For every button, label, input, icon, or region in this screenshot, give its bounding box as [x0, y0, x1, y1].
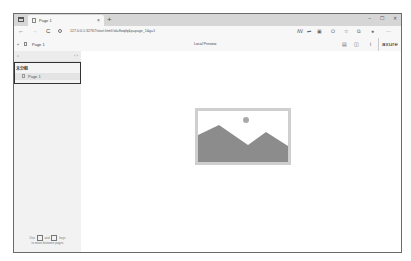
image-placeholder-icon	[198, 111, 288, 162]
browser-window: Page 1 × + – ☐ ✕ ← → C 127.0.0.1:32767/s…	[13, 13, 402, 253]
tab-close-icon[interactable]: ×	[97, 17, 100, 23]
prototype-canvas	[81, 51, 401, 252]
sitemap-item-page-1[interactable]: Page 1	[15, 73, 80, 80]
favorites-icon[interactable]: ☆	[344, 28, 348, 34]
sitemap-item-label: Page 1	[28, 74, 41, 79]
folder-label[interactable]: 未分组	[16, 65, 28, 71]
maximize-button[interactable]: ☐	[380, 15, 384, 21]
tab-actions-icon[interactable]	[18, 17, 24, 22]
hint-line2: to move between pages	[14, 241, 81, 246]
tab-bar: Page 1 × + – ☐ ✕	[14, 14, 401, 26]
tab-title: Page 1	[39, 18, 52, 23]
page-favicon-icon	[32, 18, 36, 23]
axure-logo: axure	[378, 38, 401, 51]
keyboard-hint: Use and keys to move between pages	[14, 235, 81, 246]
hint-keys: keys	[59, 236, 65, 240]
collapse-sidebar-icon[interactable]: «	[17, 42, 19, 47]
profile-icon[interactable]: ●	[371, 28, 374, 34]
close-window-button[interactable]: ✕	[393, 15, 397, 21]
more-icon[interactable]: ···	[386, 28, 391, 34]
page-icon	[22, 74, 25, 78]
sitemap-tree: 未分组 Page 1	[14, 62, 81, 84]
site-info-icon[interactable]	[58, 29, 62, 33]
collections-icon[interactable]: ⧉	[357, 28, 361, 35]
hint-and: and	[45, 236, 50, 240]
apps-icon[interactable]: ▣	[317, 28, 322, 34]
layout-icon[interactable]: ◫	[354, 41, 359, 47]
read-aloud-icon[interactable]: ꟿ	[297, 28, 303, 34]
forward-button[interactable]: →	[32, 28, 38, 34]
extension-icon[interactable]: ⭘	[331, 28, 335, 35]
info-icon[interactable]: i	[370, 41, 371, 47]
image-placeholder	[195, 108, 291, 165]
translate-icon[interactable]: ⇌	[307, 28, 311, 34]
search-icon[interactable]: ⌕	[17, 53, 19, 58]
local-preview-label: Local Preview	[194, 42, 216, 46]
minimize-button[interactable]: –	[368, 15, 371, 21]
sitemap-sidebar: ⌕ ‹ › 未分组 Page 1 Use and keys to move be…	[14, 51, 82, 252]
axure-toolbar: « Page 1 Local Preview ▤ ◫ i axure	[14, 38, 401, 52]
refresh-button[interactable]: C	[46, 28, 50, 34]
tab-page-1[interactable]: Page 1 ×	[28, 15, 104, 26]
current-page-name: Page 1	[32, 42, 45, 47]
sitemap-icon[interactable]: ▤	[342, 41, 347, 47]
new-tab-button[interactable]: +	[107, 15, 112, 24]
back-button[interactable]: ←	[18, 28, 24, 34]
page-nav-arrows[interactable]: ‹ ›	[74, 53, 78, 58]
page-icon	[24, 42, 27, 46]
url-input[interactable]: 127.0.0.1:32767/start.html#id=8wqfq&p=pa…	[70, 29, 155, 33]
hint-use: Use	[30, 236, 35, 240]
sitemap-search: ⌕ ‹ ›	[14, 51, 81, 62]
